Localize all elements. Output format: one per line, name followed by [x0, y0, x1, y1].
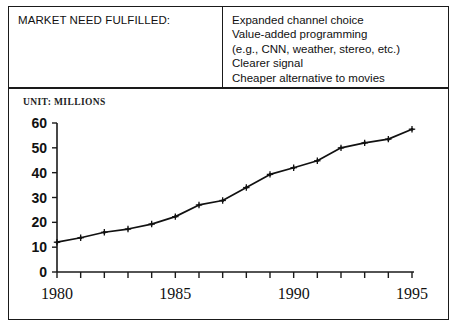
chart-panel: UNIT: MILLIONS 0102030405060 19801985199… — [8, 88, 449, 320]
data-point — [148, 221, 154, 227]
list-item: Expanded channel choice — [232, 13, 448, 27]
y-tick-label: 50 — [31, 140, 47, 156]
y-axis: 0102030405060 — [31, 115, 57, 280]
data-point — [219, 197, 225, 203]
x-tick-label: 1980 — [41, 285, 73, 302]
y-tick-label: 30 — [31, 190, 47, 206]
market-need-list: Expanded channel choice Value-added prog… — [232, 13, 448, 85]
data-point — [101, 229, 107, 235]
x-axis: 1980198519901995 — [41, 272, 428, 302]
y-tick-label: 60 — [31, 115, 47, 131]
data-point-dot — [245, 186, 248, 189]
x-tick-label: 1995 — [396, 285, 428, 302]
x-tick-label: 1985 — [159, 285, 191, 302]
list-item: (e.g., CNN, weather, stereo, etc.) — [232, 42, 448, 56]
y-tick-label: 10 — [31, 239, 47, 255]
data-point-dot — [316, 159, 319, 162]
data-point — [77, 235, 83, 241]
market-need-title: MARKET NEED FULFILLED: — [18, 13, 222, 27]
data-point — [172, 213, 178, 219]
data-point — [385, 136, 391, 142]
data-point-dot — [411, 128, 414, 131]
list-item: Clearer signal — [232, 56, 448, 70]
market-need-label-cell: MARKET NEED FULFILLED: — [9, 7, 223, 87]
data-point-dot — [221, 199, 224, 202]
data-point-dot — [56, 241, 59, 244]
data-point — [361, 140, 367, 146]
data-point-dot — [363, 141, 366, 144]
market-need-table: MARKET NEED FULFILLED: Expanded channel … — [8, 6, 449, 88]
list-item: Cheaper alternative to movies — [232, 71, 448, 85]
y-tick-label: 40 — [31, 165, 47, 181]
data-point-dot — [79, 236, 82, 239]
data-point — [125, 226, 131, 232]
line-chart: 0102030405060 1980198519901995 — [9, 89, 450, 321]
data-point — [196, 202, 202, 208]
figure-root: MARKET NEED FULFILLED: Expanded channel … — [0, 0, 457, 327]
data-point-dot — [174, 215, 177, 218]
data-point — [267, 171, 273, 177]
data-point — [314, 158, 320, 164]
data-point-dot — [127, 228, 130, 231]
data-point-dot — [150, 223, 153, 226]
data-point — [243, 184, 249, 190]
data-point-dot — [387, 138, 390, 141]
data-point — [290, 165, 296, 171]
data-point-dot — [340, 146, 343, 149]
list-item: Value-added programming — [232, 27, 448, 41]
data-point-dot — [292, 166, 295, 169]
x-tick-label: 1990 — [278, 285, 310, 302]
data-point — [338, 145, 344, 151]
y-tick-label: 0 — [39, 264, 47, 280]
data-series — [54, 126, 415, 245]
series-line — [57, 129, 412, 242]
data-point — [54, 239, 60, 245]
data-point-dot — [198, 203, 201, 206]
market-need-items-cell: Expanded channel choice Value-added prog… — [223, 7, 448, 87]
data-point — [409, 126, 415, 132]
y-tick-label: 20 — [31, 214, 47, 230]
data-point-dot — [269, 173, 272, 176]
data-point-dot — [103, 231, 106, 234]
